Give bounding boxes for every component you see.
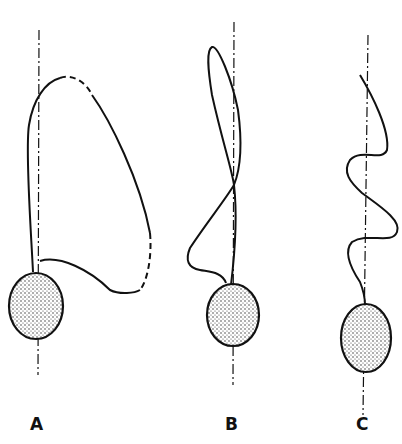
flagellum-a-solid — [28, 78, 150, 293]
panel-a — [9, 30, 151, 375]
panel-label-a: A — [30, 414, 43, 434]
cell-body-c — [341, 304, 391, 372]
flagella-diagram — [0, 0, 402, 444]
panel-label-c: C — [356, 414, 368, 434]
cell-body-a — [9, 273, 63, 339]
flagellum-c — [347, 75, 398, 305]
cell-body-b — [207, 284, 259, 346]
flagellum-b — [188, 47, 241, 285]
panel-label-b: B — [225, 414, 238, 434]
panel-b — [188, 22, 259, 385]
panel-c — [341, 35, 398, 415]
